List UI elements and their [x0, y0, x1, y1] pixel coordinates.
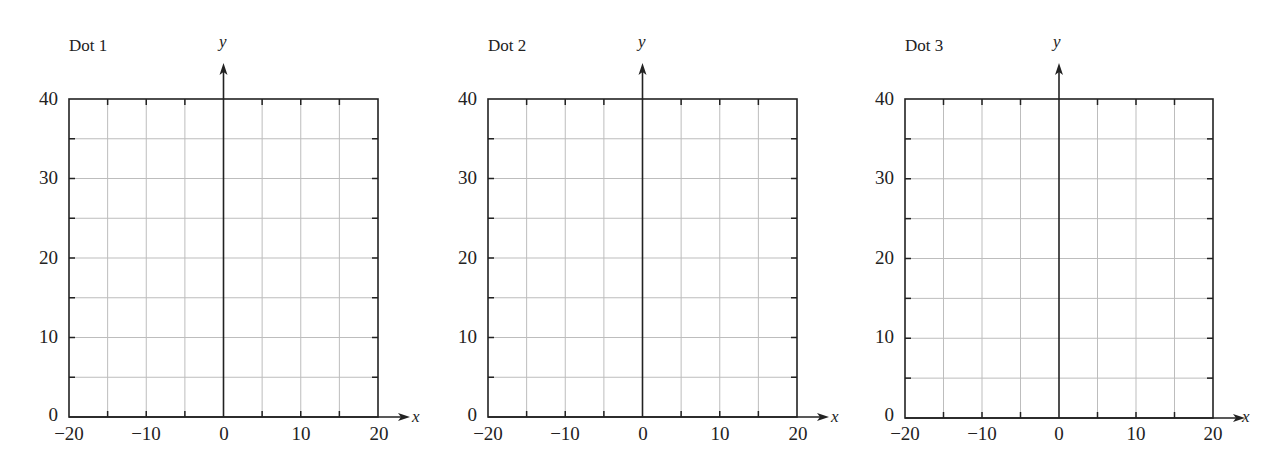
y-tick-label: 20	[18, 247, 58, 269]
x-tick-label: −20	[463, 423, 513, 445]
y-tick-label: 10	[854, 326, 894, 348]
x-tick-label: −20	[880, 423, 930, 445]
y-tick-label: 30	[854, 167, 894, 189]
x-tick-label: 10	[276, 423, 326, 445]
x-tick-label: −10	[957, 423, 1007, 445]
x-tick-label: −10	[121, 423, 171, 445]
x-axis-label: x	[1242, 407, 1250, 427]
x-tick-label: 0	[618, 423, 668, 445]
y-tick-label: 10	[437, 326, 477, 348]
x-tick-label: −20	[44, 423, 94, 445]
x-tick-label: 20	[1188, 423, 1238, 445]
y-tick-label: 30	[18, 167, 58, 189]
y-axis-label: y	[1053, 32, 1061, 52]
x-tick-label: 0	[1034, 423, 1084, 445]
x-tick-label: 0	[199, 423, 249, 445]
plot-title: Dot 2	[488, 36, 526, 56]
grid-chart	[419, 0, 839, 474]
grid-chart	[836, 0, 1256, 474]
y-tick-label: 20	[437, 247, 477, 269]
y-tick-label: 30	[437, 167, 477, 189]
grid-chart	[0, 0, 420, 474]
y-tick-label: 40	[854, 88, 894, 110]
x-tick-label: 20	[354, 423, 404, 445]
plot-title: Dot 3	[905, 36, 943, 56]
x-tick-label: 20	[773, 423, 823, 445]
y-tick-label: 40	[437, 88, 477, 110]
y-tick-label: 40	[18, 88, 58, 110]
plot-dot-2: Dot 2 y x 40 30 20 10 0 −20 −10 0 10 20	[419, 0, 839, 474]
y-tick-label: 20	[854, 247, 894, 269]
y-axis-label: y	[638, 32, 646, 52]
x-tick-label: 10	[1111, 423, 1161, 445]
plot-dot-3: Dot 3 y x 40 30 20 10 0 −20 −10 0 10 20	[836, 0, 1256, 474]
x-tick-label: 10	[695, 423, 745, 445]
y-axis-label: y	[219, 32, 227, 52]
y-tick-label: 10	[18, 326, 58, 348]
x-tick-label: −10	[540, 423, 590, 445]
plot-dot-1: Dot 1 y x 40 30 20 10 0 −20 −10 0 10 20	[0, 0, 420, 474]
plot-title: Dot 1	[69, 36, 107, 56]
